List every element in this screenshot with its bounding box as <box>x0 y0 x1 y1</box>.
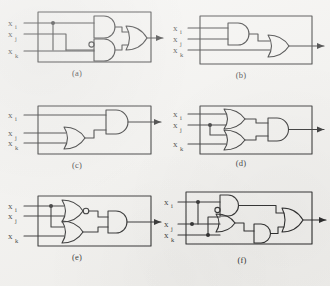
or-gate-e <box>62 221 83 243</box>
circuit-diagram-f: x i x j x k <box>164 186 330 256</box>
label-xi-sub-b: i <box>180 28 182 35</box>
label-xk-f: x <box>164 230 169 240</box>
label-xj-a: x <box>8 29 13 39</box>
label-xk-sub-f: k <box>171 236 175 243</box>
label-xk-c: x <box>8 138 13 148</box>
caption-e: (e) <box>57 252 97 262</box>
label-xj-sub-a: j <box>14 35 17 42</box>
label-xi-d: x <box>173 109 178 119</box>
label-xi-sub-c: i <box>15 115 17 122</box>
output-arrow-c <box>154 119 161 125</box>
caption-c: (c) <box>57 160 97 170</box>
label-xj-f: x <box>164 219 169 229</box>
and-gate-bottom-a <box>94 39 115 61</box>
and-gate-c <box>106 110 128 134</box>
circuit-diagram-a: x i x j x k <box>6 6 166 68</box>
label-xk-b: x <box>173 45 178 55</box>
label-xi-b: x <box>173 23 178 33</box>
output-bubble-e <box>83 208 89 214</box>
panel-boundary-e <box>38 196 151 246</box>
output-arrow-a <box>156 35 163 41</box>
panel-d: x i x j x k <box>172 100 330 158</box>
wire-and-to-or-b <box>249 34 270 41</box>
figure-page: x i x j x k (a) <box>0 0 330 286</box>
label-xi-sub-e: i <box>15 206 17 213</box>
wire-or-to-and-c <box>85 130 106 138</box>
label-xj-sub-f: j <box>170 225 173 232</box>
panel-b: x i x j x k <box>172 8 330 68</box>
circuit-diagram-c: x i x j x k <box>6 100 166 158</box>
output-arrow-f <box>319 217 326 223</box>
label-xj-sub-c: j <box>14 134 17 141</box>
panel-a: x i x j x k <box>6 6 166 68</box>
caption-d: (d) <box>221 158 261 168</box>
panel-boundary-b <box>200 16 312 64</box>
caption-f: (f) <box>222 255 262 265</box>
and-gate-lower-f <box>254 224 271 243</box>
wire-and-top-to-or-f <box>239 206 284 214</box>
or-gate-output-f <box>282 208 303 232</box>
input-bubble-f <box>215 207 220 212</box>
label-xi-sub-d: i <box>180 114 182 121</box>
label-xk-sub-d: k <box>180 145 184 152</box>
caption-a: (a) <box>57 68 97 78</box>
panel-c: x i x j x k <box>6 100 166 158</box>
circuit-diagram-d: x i x j x k <box>172 100 330 158</box>
output-arrow-e <box>154 219 161 225</box>
output-arrow-d <box>317 127 324 133</box>
nor-gate-e <box>62 200 83 222</box>
circuit-diagram-b: x i x j x k <box>172 8 330 68</box>
wire-or-top-to-and-d <box>245 119 268 123</box>
or-gate-top-d <box>224 109 245 129</box>
label-xj-c: x <box>8 128 13 138</box>
label-xk-sub-a: k <box>15 52 19 59</box>
input-bubble-a <box>89 42 94 47</box>
input-line-xj-a <box>24 34 66 50</box>
label-xj-e: x <box>8 211 13 221</box>
and-gate-top-a <box>94 16 115 38</box>
or-gate-b <box>268 35 289 57</box>
label-xi-f: x <box>164 197 169 207</box>
label-xj-sub-d: j <box>179 126 182 133</box>
and-gate-b <box>228 23 249 45</box>
label-xi-e: x <box>8 201 13 211</box>
label-xj-b: x <box>173 34 178 44</box>
label-xj-sub-e: j <box>14 217 17 224</box>
or-gate-c <box>64 127 85 149</box>
label-xk-sub-e: k <box>15 237 19 244</box>
wire-nor-to-and-e <box>89 211 108 217</box>
panel-f: x i x j x k <box>164 186 330 256</box>
label-xk-sub-c: k <box>15 144 19 151</box>
label-xk-d: x <box>173 139 178 149</box>
label-xj-sub-b: j <box>179 40 182 47</box>
junction-dot-xj-f <box>190 222 194 226</box>
wire-or-to-and-lower-f <box>235 223 254 231</box>
or-gate-a <box>126 26 147 50</box>
panel-boundary-f <box>186 192 312 244</box>
label-xk-e: x <box>8 231 13 241</box>
panel-e: x i x j x k <box>6 190 166 252</box>
wire-or-to-and-e <box>83 227 108 232</box>
circuit-diagram-e: x i x j x k <box>6 190 166 252</box>
label-xi-sub-f: i <box>171 202 173 209</box>
label-xj-d: x <box>173 120 178 130</box>
label-xi-a: x <box>8 18 13 28</box>
or-gate-bottom-d <box>224 130 245 150</box>
output-arrow-b <box>317 43 324 49</box>
label-xi-sub-a: i <box>15 23 17 30</box>
label-xk-sub-b: k <box>180 51 184 58</box>
and-gate-d <box>268 118 289 141</box>
label-xk-a: x <box>8 46 13 56</box>
and-gate-top-f <box>220 195 239 216</box>
and-gate-e <box>108 211 127 233</box>
wire-or-bot-to-and-d <box>245 136 268 140</box>
wire-and-top-to-or-a <box>115 27 128 32</box>
label-xi-c: x <box>8 110 13 120</box>
caption-b: (b) <box>221 70 261 80</box>
